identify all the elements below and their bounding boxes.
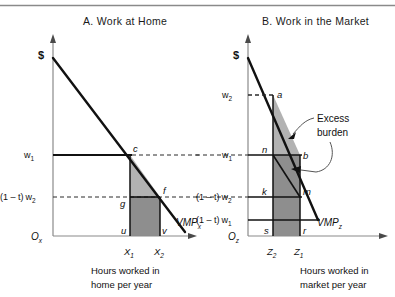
excess-burden-annotation-line1: Excess: [317, 113, 349, 124]
panel-b-1mt-w1-sub: 1: [228, 220, 232, 227]
panel-b-caption-line2: market per year: [300, 279, 367, 290]
panel-b-point-b: b: [303, 150, 308, 161]
panel-b-curve-label-text: VMP: [317, 217, 339, 228]
panel-b-1mt-w2-label: (1 – t)w2: [196, 192, 232, 204]
figure-container: A. Work at Home $: [0, 0, 395, 297]
panel-b-curve-label: VMPz: [317, 217, 343, 230]
panel-b-point-m: m: [303, 186, 311, 197]
panel-a-xtick-x2: X2: [153, 246, 164, 259]
panel-a-1mt-w2-label: (1 – t)w2: [0, 192, 36, 204]
panel-a-point-v: v: [162, 225, 168, 236]
excess-burden-leader-lower: [316, 142, 332, 172]
panel-a-point-f: f: [163, 185, 167, 196]
panel-a-shaded-rect: [130, 197, 160, 236]
panel-b-y-axis-arrowhead: [245, 34, 251, 43]
panel-b-w1-sub: 1: [229, 155, 233, 162]
panel-b-x-axis-arrowhead: [379, 233, 388, 239]
panel-a-y-axis-arrowhead: [50, 34, 56, 43]
panel-b-point-a: a: [277, 89, 282, 100]
svg-text:(1 – t)w2: (1 – t)w2: [0, 192, 36, 204]
panel-a-1mt-w2-prefix: (1 – t): [0, 192, 24, 202]
panel-a-title: A. Work at Home: [83, 15, 167, 27]
panel-a-xtick-x1-sub: 1: [130, 252, 134, 259]
panel-a-point-c: c: [133, 143, 138, 154]
excess-burden-annotation-line2: burden: [317, 127, 348, 138]
panel-b-money-axis-label: $: [233, 49, 239, 61]
panel-a-point-u: u: [121, 225, 127, 236]
panel-a-vmp-curve: [53, 58, 185, 232]
panel-b-work-in-market: B. Work in the Market: [196, 15, 388, 290]
panel-b-xtick-z2: Z2: [266, 246, 277, 259]
panel-b-point-k: k: [262, 186, 268, 197]
panel-b-w2-label: w2: [221, 90, 233, 102]
panel-b-point-r: r: [303, 225, 307, 236]
excess-burden-leader-upper: [293, 118, 314, 134]
panel-b-origin-sub: z: [235, 237, 240, 244]
economics-figure: A. Work at Home $: [0, 0, 395, 297]
panel-a-w1-label: w1: [23, 150, 35, 162]
panel-b-xtick-z1: Z1: [293, 246, 304, 259]
panel-b-1mt-w2-prefix: (1 – t): [196, 192, 220, 202]
panel-b-xtick-z1-sub: 1: [300, 252, 304, 259]
panel-a-origin-label: Ox: [31, 231, 43, 244]
panel-a-caption-line1: Hours worked in: [91, 265, 160, 276]
panel-b-1mt-w1-label: (1 – t)w1: [196, 215, 232, 227]
panel-a-xtick-x1: X1: [123, 246, 134, 259]
panel-a-x-axis-arrowhead: [188, 233, 197, 239]
panel-b-1mt-w1-prefix: (1 – t): [196, 215, 220, 225]
panel-a-point-g: g: [120, 198, 126, 209]
panel-b-w1-label: w1: [221, 150, 233, 162]
panel-b-point-n: n: [262, 144, 267, 155]
panel-b-w2-sub: 2: [229, 95, 233, 102]
panel-a-shaded-triangle: [130, 155, 160, 197]
panel-a-xtick-x2-sub: 2: [159, 252, 164, 259]
panel-a-work-at-home: A. Work at Home $: [0, 15, 202, 290]
panel-a-money-axis-label: $: [38, 49, 44, 61]
panel-a-w1-sub: 1: [31, 155, 35, 162]
svg-text:w1: w1: [23, 150, 35, 162]
panel-b-1mt-w2-sub: 2: [228, 197, 232, 204]
panel-b-point-s: s: [264, 225, 269, 236]
panel-a-origin-sub: x: [38, 237, 43, 244]
panel-b-origin-label: Oz: [228, 231, 240, 244]
panel-b-curve-label-sub: z: [338, 223, 343, 230]
panel-b-title: B. Work in the Market: [262, 15, 369, 27]
panel-b-caption-line1: Hours worked in: [300, 265, 369, 276]
excess-burden-leader-lower-tail: [301, 170, 316, 172]
panel-a-1mt-w2-sub: 2: [32, 197, 36, 204]
panel-a-curve-label-text: VMP: [176, 217, 198, 228]
panel-a-caption-line2: home per year: [91, 279, 152, 290]
panel-b-xtick-z2-sub: 2: [272, 252, 277, 259]
